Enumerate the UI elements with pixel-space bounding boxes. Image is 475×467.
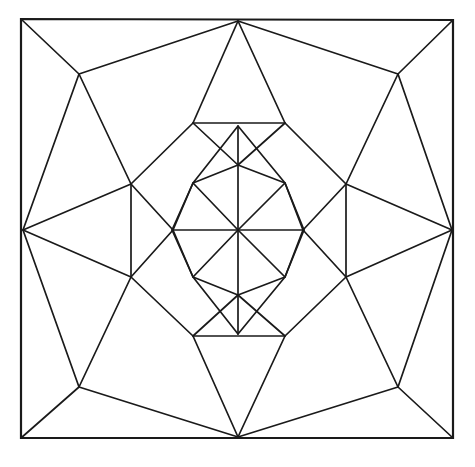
star-mandala-drawing [0,0,475,467]
figure-canvas [0,0,475,467]
